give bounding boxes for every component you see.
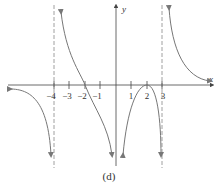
tick-label: 3 bbox=[161, 91, 166, 101]
figure-caption: (d) bbox=[0, 170, 218, 182]
graph: x y −4 −3 −2 −1 1 2 3 bbox=[0, 0, 218, 187]
branch-right bbox=[169, 8, 210, 81]
tick-label: 2 bbox=[145, 91, 150, 101]
y-axis-label: y bbox=[121, 4, 126, 14]
x-axis-label: x bbox=[208, 74, 213, 84]
branch-left bbox=[10, 89, 51, 155]
tick-label: 1 bbox=[129, 91, 134, 101]
tick-label: −1 bbox=[92, 91, 102, 101]
tick-label: −4 bbox=[46, 91, 56, 101]
tick-label: −3 bbox=[62, 91, 72, 101]
tick-label: −2 bbox=[77, 91, 87, 101]
